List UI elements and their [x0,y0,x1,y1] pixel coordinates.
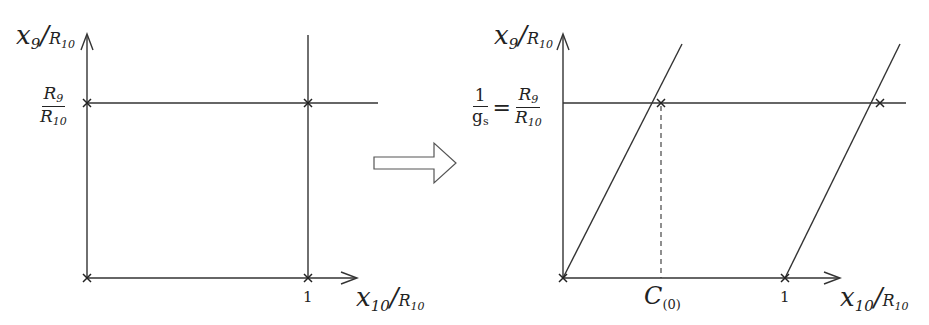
right-x-axis-label: x10/R10 [840,282,909,315]
right-y-tick-equation: 1 gs = R9 R10 [472,86,542,128]
right-diagonal-line-2 [785,44,900,278]
right-x-tick-c0: C(0) [644,282,681,312]
left-y-axis-label: x9/R10 [16,20,75,53]
left-cross-markers [83,99,312,282]
left-y-tick-fraction: R9 R10 [40,84,67,127]
left-x-tick-1: 1 [303,288,313,306]
hollow-right-arrow-icon [374,143,456,183]
left-x-axis-label: x10/R10 [356,282,425,315]
right-x-tick-1: 1 [780,288,790,306]
diagram-canvas [0,0,929,325]
right-y-axis-label: x9/R10 [494,20,553,53]
right-diagonal-line-1 [563,44,682,278]
